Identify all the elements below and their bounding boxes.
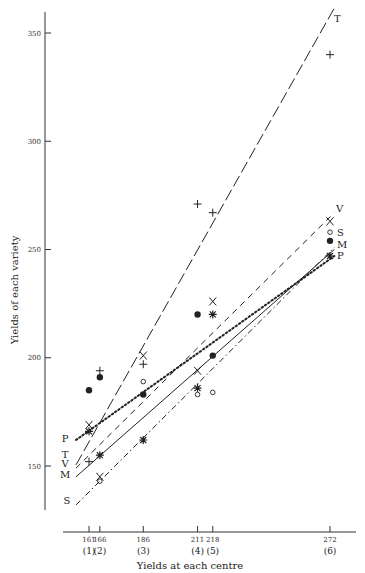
asterisk-marker-icon (139, 436, 147, 444)
series-label-left-V: V (60, 458, 69, 469)
y-tick-label: 300 (28, 138, 41, 146)
x-tick-label: 211 (191, 536, 204, 544)
centre-label: (3) (137, 546, 150, 556)
series-labels: TTVVMMPPSS (60, 13, 347, 506)
data-points (85, 51, 334, 484)
fit-line-P (76, 256, 334, 440)
plus-marker-icon (85, 458, 93, 466)
filled-circle-marker-icon (210, 352, 216, 358)
x-axis-title: Yields at each centre (136, 560, 243, 571)
series-label-right-M: M (337, 239, 347, 250)
y-tick-label: 150 (28, 463, 41, 471)
series-label-right-P: P (337, 250, 344, 261)
fit-line-V (76, 213, 334, 468)
x-marker-icon (327, 217, 334, 225)
centre-label: (4) (191, 546, 204, 556)
plus-marker-icon (209, 209, 217, 217)
x-marker-icon (140, 352, 147, 360)
centre-label: (2) (93, 546, 106, 556)
asterisk-marker-icon (194, 384, 202, 392)
fit-lines (76, 8, 334, 505)
series-label-right-T: T (334, 13, 341, 24)
x-marker-icon (209, 297, 216, 305)
asterisk-marker-icon (326, 252, 334, 260)
open-circle-marker-icon (98, 479, 103, 484)
centre-label: (5) (206, 546, 219, 556)
open-circle-marker-icon (195, 392, 200, 397)
series-label-right-S: S (337, 227, 344, 238)
x-tick-label: 166 (93, 536, 107, 544)
asterisk-marker-icon (85, 427, 93, 435)
open-circle-marker-icon (328, 230, 333, 235)
plus-marker-icon (326, 51, 334, 59)
y-tick-label: 350 (28, 30, 41, 38)
x-marker-icon (194, 367, 201, 375)
axes: 150200250300350161(1)166(2)186(3)211(4)2… (28, 12, 356, 556)
filled-circle-marker-icon (327, 238, 333, 244)
open-circle-marker-icon (141, 379, 146, 384)
y-tick-label: 250 (28, 246, 41, 254)
x-tick-label: 218 (206, 536, 219, 544)
centre-label: (6) (324, 546, 337, 556)
filled-circle-marker-icon (140, 391, 146, 397)
fit-line-S (76, 247, 334, 505)
plus-marker-icon (139, 360, 147, 368)
series-label-left-P: P (62, 433, 69, 444)
y-axis-title: Yields of each variety (9, 235, 20, 345)
series-label-left-S: S (64, 495, 71, 506)
plus-marker-icon (194, 200, 202, 208)
x-tick-label: 186 (137, 536, 151, 544)
filled-circle-marker-icon (86, 387, 92, 393)
filled-circle-marker-icon (194, 311, 200, 317)
series-label-left-M: M (60, 469, 70, 480)
asterisk-marker-icon (209, 310, 217, 318)
open-circle-marker-icon (210, 390, 215, 395)
asterisk-marker-icon (96, 451, 104, 459)
chart-canvas: 150200250300350161(1)166(2)186(3)211(4)2… (0, 0, 365, 573)
x-tick-label: 272 (323, 536, 336, 544)
y-tick-label: 200 (28, 354, 41, 362)
fit-line-T (76, 8, 334, 465)
x-marker-icon (96, 473, 103, 481)
series-label-right-V: V (335, 203, 344, 214)
plus-marker-icon (96, 367, 104, 375)
filled-circle-marker-icon (97, 374, 103, 380)
